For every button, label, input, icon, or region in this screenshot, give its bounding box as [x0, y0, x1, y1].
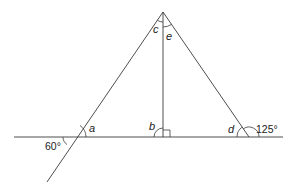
angle-60-arc — [63, 137, 67, 145]
angle-c-arc — [157, 20, 163, 22]
label-60-degrees: 60° — [45, 140, 61, 152]
label-b: b — [149, 120, 155, 132]
label-d: d — [228, 123, 235, 135]
angle-b-arc — [154, 128, 163, 137]
geometry-diagram: a 60° b c e d 125° — [0, 0, 290, 195]
left-side-line — [47, 12, 163, 182]
angle-a-arc — [80, 126, 86, 138]
angle-e-arc — [163, 24, 172, 27]
label-a: a — [89, 122, 95, 134]
right-side-line — [163, 12, 249, 137]
label-c: c — [153, 23, 159, 35]
right-angle-marker — [163, 130, 170, 137]
label-e: e — [166, 30, 172, 42]
diagram-canvas: a 60° b c e d 125° — [0, 0, 290, 195]
angle-d-arc — [237, 127, 242, 137]
label-125-degrees: 125° — [256, 123, 278, 135]
